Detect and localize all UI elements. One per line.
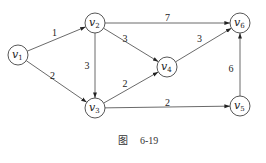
edge-v4-v6 xyxy=(176,28,232,62)
edge-weight-v2-v4: 3 xyxy=(123,33,128,44)
edge-weight-v3-v5: 2 xyxy=(165,97,170,108)
node-v5: v5 xyxy=(230,96,250,116)
edge-weight-v2-v6: 7 xyxy=(165,12,170,23)
edge-weight-v1-v2: 1 xyxy=(52,27,57,38)
caption-number: 6-19 xyxy=(140,135,158,146)
edge-v1-v3 xyxy=(26,61,87,103)
edge-weight-v2-v3: 3 xyxy=(85,60,90,71)
edge-weight-v1-v3: 2 xyxy=(50,70,55,81)
node-v2: v2 xyxy=(85,13,105,33)
node-v6: v6 xyxy=(230,13,250,33)
node-v4: v4 xyxy=(157,57,177,77)
edge-weight-v4-v6: 3 xyxy=(197,33,202,44)
node-v1: v1 xyxy=(8,45,28,65)
edge-weight-v3-v4: 2 xyxy=(123,78,128,89)
node-v3: v3 xyxy=(85,98,105,118)
edge-v2-v4 xyxy=(104,28,159,62)
edge-weight-v5-v6: 6 xyxy=(229,63,234,74)
graph-diagram: 123372236 v1v2v3v4v5v6 图 6-19 xyxy=(0,0,266,163)
caption-fig: 图 xyxy=(118,135,128,146)
edge-v3-v4 xyxy=(104,72,159,103)
